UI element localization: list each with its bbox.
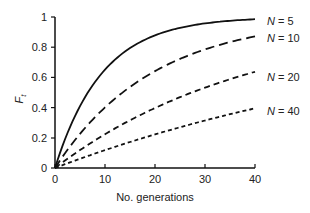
legend-n10: N = 10 [267,32,300,44]
legend: N = 5 N = 10 N = 20 N = 40 [267,15,300,117]
series-line-n10 [55,36,255,168]
legend-n20: N = 20 [267,71,300,83]
x-tick-label: 0 [52,173,58,185]
y-tick-label: 0 [41,162,47,174]
series-line-n5 [55,19,255,168]
y-tick-label: 1 [41,11,47,23]
x-tick-label: 40 [249,173,261,185]
legend-n40: N = 40 [267,105,300,117]
series-line-n20 [55,72,255,168]
y-tick-label: 0.8 [32,41,47,53]
x-axis-title: No. generations [116,191,194,203]
y-tick-labels: 0 0.2 0.4 0.6 0.8 1 [32,11,47,174]
y-tick-label: 0.2 [32,132,47,144]
series-lines [55,19,255,168]
x-tick-label: 20 [149,173,161,185]
y-tick-label: 0.4 [32,102,47,114]
series-line-n40 [55,108,255,168]
x-tick-label: 10 [99,173,111,185]
y-axis-title: Ft [13,94,28,104]
chart: 0 0.2 0.4 0.6 0.8 1 0 10 20 30 40 No. ge… [0,0,310,213]
svg-text:Ft: Ft [13,94,28,104]
legend-n5: N = 5 [267,15,294,27]
x-tick-label: 30 [199,173,211,185]
y-tick-label: 0.6 [32,71,47,83]
x-tick-labels: 0 10 20 30 40 [52,173,261,185]
